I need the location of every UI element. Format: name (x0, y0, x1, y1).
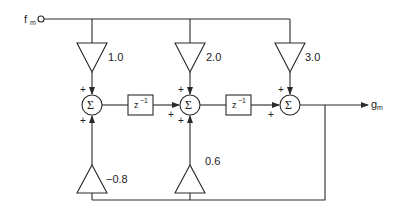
plus-sign: + (268, 109, 274, 120)
input-subscript: m (30, 19, 36, 26)
summer-3: Σ (280, 95, 300, 115)
delay-exponent: −1 (238, 97, 246, 104)
amplifier-down-icon (77, 43, 107, 72)
delay-block-1: z −1 (128, 95, 153, 115)
feedforward-gain-1: 1.0 (77, 43, 123, 72)
plus-sign: + (178, 115, 184, 126)
feedforward-gain-3: 3.0 (275, 43, 320, 72)
sigma-label: Σ (185, 98, 192, 112)
output-node: g m (371, 98, 383, 111)
gain-label: 0.6 (205, 155, 220, 167)
amplifier-up-icon (175, 165, 205, 193)
feedback-gain-2: 0.6 (175, 155, 220, 193)
gain-label: 1.0 (108, 51, 123, 63)
plus-sign: + (80, 84, 86, 95)
plus-sign: + (80, 115, 86, 126)
amplifier-down-icon (275, 43, 305, 72)
input-terminal-icon (38, 16, 44, 22)
plus-sign: + (168, 109, 174, 120)
feedback-line (92, 105, 325, 200)
block-diagram: f m 1.0 2.0 3.0 + + + + + + + Σ Σ Σ (0, 0, 397, 217)
delay-exponent: −1 (140, 97, 148, 104)
output-subscript: m (377, 104, 383, 111)
delay-label: z (232, 100, 237, 110)
input-label: f (24, 13, 28, 25)
input-node: f m (24, 13, 44, 26)
plus-sign: + (278, 84, 284, 95)
sigma-label: Σ (87, 98, 94, 112)
feedforward-gain-2: 2.0 (175, 43, 221, 72)
amplifier-down-icon (175, 43, 205, 72)
summer-1: Σ (82, 95, 102, 115)
gain-label: −0.8 (106, 173, 128, 185)
amplifier-up-icon (77, 165, 107, 193)
sigma-label: Σ (285, 98, 292, 112)
gain-label: 3.0 (305, 51, 320, 63)
gain-label: 2.0 (206, 51, 221, 63)
delay-block-2: z −1 (226, 95, 251, 115)
delay-label: z (134, 100, 139, 110)
feedback-gain-1: −0.8 (77, 165, 128, 193)
summer-2: Σ (180, 95, 200, 115)
plus-sign: + (178, 84, 184, 95)
